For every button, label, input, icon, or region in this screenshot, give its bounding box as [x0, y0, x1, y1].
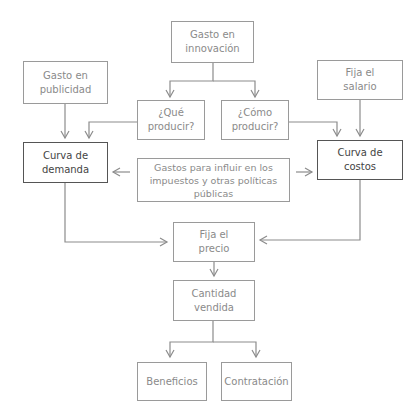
node-label: Beneficios — [146, 375, 197, 389]
node-gasto-innovacion: Gasto eninnovación — [171, 21, 254, 63]
node-label: públicas — [150, 187, 278, 200]
node-label: Cantidad — [192, 287, 237, 301]
node-label: Gastos para influir en los — [150, 161, 278, 174]
node-contratacion: Contratación — [221, 362, 292, 401]
node-cantidad-vendida: Cantidadvendida — [173, 280, 255, 321]
node-label: Fija el — [343, 66, 376, 80]
node-label: Curva de — [42, 149, 89, 163]
node-label: ¿Qué — [148, 106, 195, 120]
edge-cantidad-contratacion — [213, 342, 256, 357]
node-label: Gasto en — [40, 69, 92, 83]
node-label: Fija el — [199, 228, 230, 242]
node-label: precio — [199, 242, 230, 256]
node-beneficios: Beneficios — [137, 362, 207, 401]
node-label: producir? — [232, 120, 279, 134]
node-como-producir: ¿Cómoproducir? — [221, 100, 289, 140]
node-label: salario — [343, 80, 376, 94]
node-label: Gasto en — [185, 28, 239, 42]
node-gasto-publicidad: Gasto enpublicidad — [23, 61, 108, 104]
edge-como-costos — [289, 122, 337, 136]
node-gastos-politicas: Gastos para influir en losimpuestos y ot… — [137, 158, 290, 202]
node-fija-salario: Fija elsalario — [317, 60, 403, 100]
node-curva-demanda: Curva dedemanda — [23, 142, 108, 183]
node-label: vendida — [192, 301, 237, 315]
node-label: producir? — [148, 120, 195, 134]
edge-cantidad-beneficios — [170, 321, 213, 357]
flow-diagram: Gasto eninnovación Gasto enpublicidad Fi… — [0, 0, 419, 417]
node-que-producir: ¿Quéproducir? — [137, 100, 205, 140]
node-label: costos — [337, 160, 382, 174]
node-label: ¿Cómo — [232, 106, 279, 120]
node-curva-costos: Curva decostos — [317, 140, 403, 180]
node-fija-precio: Fija elprecio — [173, 222, 255, 262]
node-label: publicidad — [40, 83, 92, 97]
node-label: innovación — [185, 42, 239, 56]
edge-innovacion-que — [170, 62, 213, 97]
node-label: Contratación — [224, 375, 288, 389]
node-label: demanda — [42, 163, 89, 177]
edge-que-demanda — [89, 122, 137, 138]
node-label: Curva de — [337, 146, 382, 160]
edge-innovacion-como — [213, 81, 255, 97]
node-label: impuestos y otras políticas — [150, 174, 278, 187]
